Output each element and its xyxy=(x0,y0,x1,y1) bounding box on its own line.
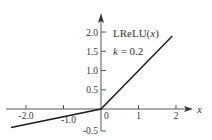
x-tick-label: 1 xyxy=(136,111,141,121)
x-tick-label: 2 xyxy=(174,111,179,121)
lrelu-chart: -2.0-1.0012 x -0.50.51.01.52.0 LReLU(x) … xyxy=(0,0,212,140)
k-parameter-label: k = 0.2 xyxy=(113,45,143,57)
y-tick-label: 1.5 xyxy=(86,47,98,57)
y-tick-label: -0.5 xyxy=(83,126,98,136)
function-label: LReLU(x) xyxy=(113,27,159,40)
x-axis-name: x xyxy=(196,103,202,115)
y-tick-label: 2.0 xyxy=(86,28,98,38)
y-axis: -0.50.51.01.52.0 xyxy=(83,13,106,136)
x-tick-label: 0 xyxy=(104,111,109,121)
y-tick-label: 0.5 xyxy=(86,85,98,95)
x-tick-label: -2.0 xyxy=(18,111,33,121)
y-tick-label: 1.0 xyxy=(86,66,98,76)
